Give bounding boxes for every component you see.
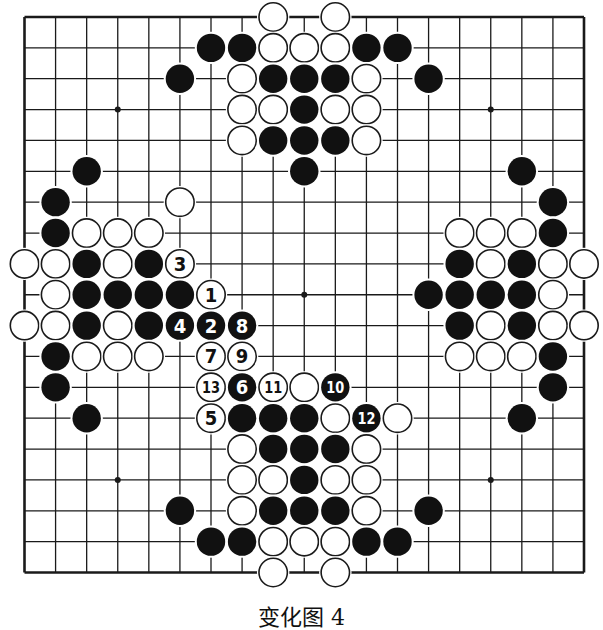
white-stone <box>537 309 569 341</box>
star-point <box>488 107 494 113</box>
black-stone <box>537 217 569 249</box>
white-stone <box>102 217 134 249</box>
white-stone <box>8 248 40 280</box>
white-stone <box>319 93 351 125</box>
white-stone <box>475 217 507 249</box>
black-stone <box>381 525 413 557</box>
figure-caption: 变化图 4 <box>0 606 603 630</box>
black-stone <box>257 495 289 527</box>
white-stone <box>164 186 196 218</box>
white-stone <box>475 248 507 280</box>
black-stone <box>506 309 538 341</box>
black-stone <box>319 63 351 95</box>
black-stone <box>319 124 351 156</box>
move-number: 11 <box>264 379 282 397</box>
black-stone <box>257 63 289 95</box>
move-number: 13 <box>202 379 220 397</box>
white-stone <box>102 309 134 341</box>
black-stone <box>70 155 102 187</box>
move-number: 8 <box>236 314 249 338</box>
star-point <box>115 107 121 113</box>
black-stone <box>319 495 351 527</box>
star-point <box>301 292 307 298</box>
black-stone <box>226 402 258 434</box>
white-stone <box>506 217 538 249</box>
black-stone <box>350 525 382 557</box>
black-stone <box>475 279 507 311</box>
black-stone <box>288 495 320 527</box>
white-stone-move-11: 11 <box>257 371 289 403</box>
black-stone <box>226 525 258 557</box>
black-stone <box>288 402 320 434</box>
white-stone <box>350 433 382 465</box>
white-stone <box>257 464 289 496</box>
white-stone <box>319 1 351 33</box>
white-stone <box>226 464 258 496</box>
white-stone <box>257 32 289 64</box>
white-stone <box>381 402 413 434</box>
black-stone <box>257 124 289 156</box>
white-stone <box>257 525 289 557</box>
black-stone <box>70 402 102 434</box>
white-stone-move-7: 7 <box>195 340 227 372</box>
white-stone <box>70 340 102 372</box>
white-stone <box>133 217 165 249</box>
white-stone <box>568 309 600 341</box>
white-stone <box>257 1 289 33</box>
black-stone <box>506 155 538 187</box>
move-number: 4 <box>174 314 187 338</box>
black-stone <box>381 32 413 64</box>
white-stone-move-1: 1 <box>195 279 227 311</box>
move-number: 7 <box>205 344 218 368</box>
white-stone <box>39 279 71 311</box>
black-stone <box>443 248 475 280</box>
black-stone <box>164 63 196 95</box>
black-stone <box>506 279 538 311</box>
white-stone <box>537 248 569 280</box>
black-stone <box>70 279 102 311</box>
star-point <box>115 477 121 483</box>
white-stone <box>102 340 134 372</box>
white-stone <box>350 495 382 527</box>
black-stone <box>39 371 71 403</box>
white-stone <box>226 124 258 156</box>
white-stone <box>443 217 475 249</box>
white-stone <box>257 556 289 588</box>
black-stone <box>257 402 289 434</box>
black-stone <box>39 186 71 218</box>
black-stone <box>257 433 289 465</box>
move-number: 3 <box>174 252 187 276</box>
black-stone <box>288 63 320 95</box>
black-stone-move-8: 8 <box>226 309 258 341</box>
black-stone <box>288 124 320 156</box>
white-stone <box>319 402 351 434</box>
move-number: 1 <box>205 283 218 307</box>
black-stone <box>195 525 227 557</box>
black-stone <box>412 63 444 95</box>
black-stone <box>412 495 444 527</box>
white-stone <box>288 525 320 557</box>
black-stone <box>506 248 538 280</box>
black-stone-move-4: 4 <box>164 309 196 341</box>
black-stone <box>443 309 475 341</box>
white-stone <box>350 63 382 95</box>
white-stone <box>8 309 40 341</box>
black-stone <box>288 464 320 496</box>
white-stone <box>350 124 382 156</box>
black-stone <box>39 217 71 249</box>
white-stone <box>226 93 258 125</box>
black-stone <box>537 340 569 372</box>
white-stone <box>319 525 351 557</box>
black-stone <box>39 340 71 372</box>
black-stone <box>70 309 102 341</box>
move-number: 9 <box>236 344 249 368</box>
white-stone <box>288 32 320 64</box>
black-stone <box>319 433 351 465</box>
white-stone <box>319 556 351 588</box>
black-stone <box>133 279 165 311</box>
black-stone <box>537 371 569 403</box>
black-stone <box>70 248 102 280</box>
black-stone-move-6: 6 <box>226 371 258 403</box>
white-stone <box>475 340 507 372</box>
